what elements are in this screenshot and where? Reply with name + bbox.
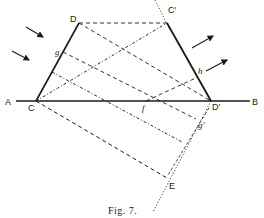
label-c-prime: C' (168, 5, 176, 15)
dashed-line-d-prime-e (168, 108, 209, 175)
figure-caption: Fig. 7. (108, 205, 137, 216)
arrow-incident-icon (12, 51, 29, 60)
arrow-incident-icon (26, 27, 43, 37)
dotted-line-d-prime-e (153, 101, 211, 212)
label-f: f (142, 103, 146, 113)
ray-c-e (36, 101, 167, 178)
label-h: h (198, 66, 203, 76)
wavefront-diagram: A B C D C' D' E f g g' h Fig. 7. (0, 0, 264, 218)
label-g: g (55, 47, 60, 57)
wavefront-cd (36, 23, 79, 101)
ray-c-c-prime (36, 23, 167, 101)
label-g-prime: g' (198, 120, 206, 130)
label-d-prime: D' (212, 102, 220, 112)
label-a: A (5, 97, 11, 107)
ray-d-d-prime (79, 23, 211, 101)
arrow-refracted-icon (206, 60, 227, 71)
label-e: E (169, 181, 175, 191)
label-c: C (28, 103, 35, 113)
label-b: B (252, 97, 258, 107)
arrow-refracted-icon (192, 36, 213, 48)
ray-g-g-prime (63, 52, 196, 119)
ray-lower-parallel (52, 72, 182, 142)
label-d: D (70, 14, 77, 24)
